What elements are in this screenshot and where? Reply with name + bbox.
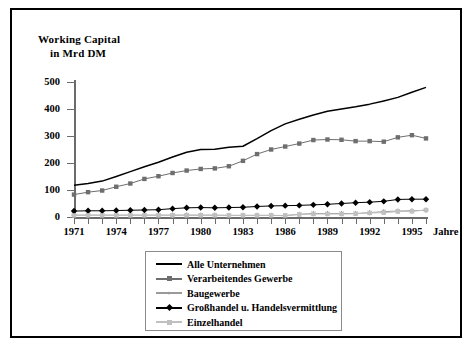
series-marker — [254, 203, 260, 209]
y-axis-tick — [67, 82, 74, 83]
chart-title-line2: in Mrd DM — [38, 46, 120, 60]
series-marker — [396, 135, 400, 139]
x-axis-tick — [201, 219, 202, 224]
y-axis-tick-label: 300 — [26, 130, 60, 141]
series-line — [74, 210, 426, 215]
series-marker — [199, 167, 203, 171]
series-1 — [74, 87, 426, 185]
series-marker — [100, 188, 104, 192]
x-axis-tick — [327, 219, 328, 224]
series-marker — [353, 211, 358, 216]
series-marker — [269, 147, 273, 151]
series-marker — [141, 207, 147, 213]
series-marker — [184, 168, 188, 172]
y-axis-tick-label: 500 — [26, 76, 60, 87]
series-marker — [183, 205, 189, 211]
legend-item: Baugewerbe — [156, 286, 341, 301]
x-axis-tick — [356, 219, 357, 224]
x-axis-tick-label: 1992 — [359, 226, 380, 237]
legend-label: Alle Unternehmen — [187, 259, 266, 270]
x-axis-tick — [271, 219, 272, 224]
x-axis-tick-label: 1989 — [317, 226, 338, 237]
series-line — [74, 135, 426, 194]
series-marker — [113, 207, 119, 213]
x-axis-tick — [412, 219, 413, 224]
x-axis-tick-label: 1971 — [64, 226, 85, 237]
series-marker — [409, 196, 415, 202]
x-axis-line — [74, 217, 428, 219]
series-marker — [311, 138, 315, 142]
series-marker — [282, 202, 288, 208]
series-marker — [156, 174, 160, 178]
legend-key-star-icon — [156, 287, 182, 299]
x-axis-tick — [158, 219, 159, 224]
chart-title-line1: Working Capital — [38, 33, 120, 45]
series-marker — [198, 204, 204, 210]
x-axis-tick — [299, 219, 300, 224]
series-marker — [409, 208, 414, 213]
chart-title: Working Capitalin Mrd DM — [38, 32, 120, 60]
series-marker — [395, 208, 400, 213]
series-marker — [424, 136, 428, 140]
legend-item: Alle Unternehmen — [156, 257, 341, 272]
series-marker — [169, 205, 175, 211]
x-axis-tick-label: 1980 — [190, 226, 211, 237]
series-marker — [227, 164, 231, 168]
x-axis-tick-label: 1977 — [148, 226, 169, 237]
series-4 — [71, 196, 429, 214]
x-axis-label: Jahre — [433, 226, 458, 237]
series-marker — [339, 211, 344, 216]
x-axis-tick — [144, 219, 145, 224]
series-marker — [226, 204, 232, 210]
series-marker — [353, 212, 357, 216]
series-marker — [367, 211, 371, 215]
x-axis-tick — [130, 219, 131, 224]
series-marker — [296, 202, 302, 208]
series-marker — [410, 133, 414, 137]
x-axis-tick-label: 1974 — [106, 226, 127, 237]
series-marker — [255, 152, 259, 156]
legend-key-square-icon — [156, 273, 182, 285]
series-marker — [127, 207, 133, 213]
y-axis-tick-label: 200 — [26, 157, 60, 168]
y-axis-tick — [67, 109, 74, 110]
series-marker — [324, 201, 330, 207]
legend-label: Einzelhandel — [187, 317, 243, 328]
x-axis-tick — [313, 219, 314, 224]
x-axis-tick — [102, 219, 103, 224]
series-marker — [99, 208, 105, 214]
series-line — [74, 87, 426, 185]
series-marker — [114, 185, 118, 189]
series-marker — [212, 205, 218, 211]
series-marker — [367, 210, 372, 215]
series-marker — [367, 139, 371, 143]
x-axis-tick-label: 1983 — [232, 226, 253, 237]
x-axis-tick-label: 1995 — [401, 226, 422, 237]
series-marker — [283, 144, 287, 148]
x-axis-tick — [74, 219, 75, 224]
series-marker — [410, 209, 414, 213]
y-axis-tick — [67, 136, 74, 137]
series-marker — [86, 190, 90, 194]
x-axis-tick — [370, 219, 371, 224]
series-marker — [311, 211, 316, 216]
legend-key-line-icon — [156, 258, 182, 270]
x-axis-tick — [116, 219, 117, 224]
series-marker — [297, 141, 301, 145]
series-marker — [170, 171, 174, 175]
series-marker — [352, 199, 358, 205]
legend-item: Verarbeitendes Gewerbe — [156, 272, 341, 287]
series-marker — [395, 196, 401, 202]
y-axis-tick-label: 100 — [26, 184, 60, 195]
series-line — [74, 199, 426, 211]
legend-item: Einzelhandel — [156, 315, 341, 330]
series-marker — [311, 212, 315, 216]
x-axis-tick — [426, 219, 427, 224]
series-2 — [72, 133, 428, 197]
y-axis-tick — [67, 217, 74, 218]
series-marker — [381, 198, 387, 204]
series-marker — [85, 208, 91, 214]
series-marker — [325, 212, 329, 216]
series-marker — [339, 138, 343, 142]
x-axis-tick — [398, 219, 399, 224]
